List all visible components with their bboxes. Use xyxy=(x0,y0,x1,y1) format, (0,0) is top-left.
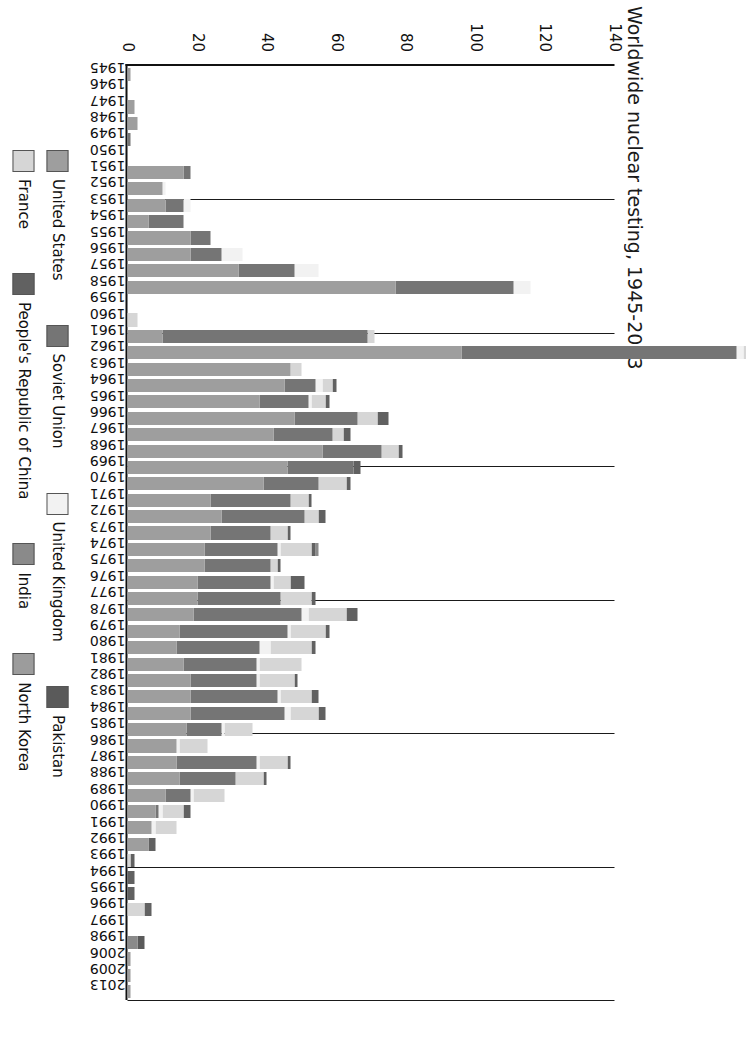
bar-1962 xyxy=(127,346,746,359)
x-tick-label: 1967 xyxy=(89,420,125,436)
legend-item[interactable]: Pakistan xyxy=(42,686,72,778)
bar-segment xyxy=(736,346,743,359)
bar-segment xyxy=(127,412,294,425)
legend-item[interactable]: India xyxy=(8,543,38,609)
y-tick-label: 120 xyxy=(535,23,553,52)
bar-segment xyxy=(197,576,270,589)
bar-segment xyxy=(190,248,221,261)
bar-segment xyxy=(127,608,193,621)
bar-segment xyxy=(461,346,736,359)
x-tick-label: 1997 xyxy=(89,912,125,928)
bar-segment xyxy=(162,182,165,195)
legend-label: North Korea xyxy=(14,682,32,771)
bar-segment xyxy=(127,576,197,589)
bar-segment xyxy=(127,215,148,228)
bar-1967 xyxy=(127,428,350,441)
bar-1971 xyxy=(127,494,311,507)
bar-segment xyxy=(398,445,401,458)
bar-segment xyxy=(127,871,134,884)
bar-segment xyxy=(332,428,342,441)
bar-segment xyxy=(127,854,130,867)
bar-1982 xyxy=(127,674,297,687)
bar-segment xyxy=(127,68,130,81)
bar-segment xyxy=(186,723,221,736)
bar-segment xyxy=(381,445,398,458)
bar-segment xyxy=(155,805,158,818)
x-tick-label: 2009 xyxy=(89,961,125,977)
bar-segment xyxy=(127,379,284,392)
x-tick-label: 1966 xyxy=(89,404,125,420)
bar-segment xyxy=(287,625,290,638)
x-tick-label: 1984 xyxy=(89,699,125,715)
legend-row-2: FrancePeople's Republic of ChinaIndiaNor… xyxy=(8,150,38,1010)
x-tick-label: 1977 xyxy=(89,584,125,600)
legend-item[interactable]: Soviet Union xyxy=(42,325,72,449)
bar-1995 xyxy=(127,887,134,900)
bar-segment xyxy=(127,428,273,441)
x-tick-label: 1954 xyxy=(89,207,125,223)
x-tick-label: 1959 xyxy=(89,289,125,305)
bar-segment xyxy=(127,739,176,752)
bar-segment xyxy=(318,707,325,720)
x-tick-label: 1979 xyxy=(89,617,125,633)
bar-segment xyxy=(165,199,182,212)
x-tick-label: 1988 xyxy=(89,764,125,780)
x-tick-label: 1956 xyxy=(89,240,125,256)
bar-segment xyxy=(162,805,183,818)
y-tick-label: 0 xyxy=(118,42,136,52)
x-tick-label: 1991 xyxy=(89,814,125,830)
bar-segment xyxy=(127,641,176,654)
legend-item[interactable]: United Kingdom xyxy=(42,493,72,642)
bar-segment xyxy=(210,494,290,507)
bar-segment xyxy=(353,461,360,474)
bar-1990 xyxy=(127,805,190,818)
bar-1981 xyxy=(127,658,301,671)
bar-segment xyxy=(256,756,259,769)
bar-1960 xyxy=(127,313,137,326)
bar-1947 xyxy=(127,100,134,113)
bar-segment xyxy=(294,674,297,687)
bar-2009 xyxy=(127,969,130,982)
bar-segment xyxy=(127,592,197,605)
legend-row-1: United StatesSoviet UnionUnited KingdomP… xyxy=(42,150,72,1010)
bar-segment xyxy=(346,477,349,490)
bar-segment xyxy=(179,772,235,785)
legend-item[interactable]: France xyxy=(8,150,38,229)
bar-segment xyxy=(259,756,287,769)
bar-segment xyxy=(259,674,294,687)
bar-segment xyxy=(127,723,186,736)
legend-item[interactable]: United States xyxy=(42,150,72,281)
x-tick-label: 1993 xyxy=(89,846,125,862)
bar-segment xyxy=(127,789,165,802)
x-tick-label: 1981 xyxy=(89,650,125,666)
bar-1952 xyxy=(127,182,165,195)
bar-1964 xyxy=(127,379,336,392)
x-tick-label: 1998 xyxy=(89,928,125,944)
y-tick-label: 140 xyxy=(605,23,623,52)
x-tick-label: 1951 xyxy=(89,158,125,174)
legend-item[interactable]: People's Republic of China xyxy=(8,273,38,500)
bar-1977 xyxy=(127,592,315,605)
bar-segment xyxy=(318,510,325,523)
bar-segment xyxy=(127,838,148,851)
legend-label: United States xyxy=(48,179,66,281)
x-tick-label: 1960 xyxy=(89,306,125,322)
bar-segment xyxy=(165,789,189,802)
bar-segment xyxy=(127,772,179,785)
bar-segment xyxy=(179,625,287,638)
x-tick-label: 1945 xyxy=(89,60,125,76)
bar-segment xyxy=(287,756,290,769)
legend-label: People's Republic of China xyxy=(14,302,32,500)
bar-segment xyxy=(190,231,211,244)
bar-1994 xyxy=(127,871,134,884)
bar-1948 xyxy=(127,117,137,130)
x-tick-label: 1983 xyxy=(89,682,125,698)
bar-1984 xyxy=(127,707,325,720)
legend-swatch-icon xyxy=(46,493,68,515)
bar-segment xyxy=(277,690,280,703)
legend-label: Soviet Union xyxy=(48,354,66,449)
legend-item[interactable]: North Korea xyxy=(8,653,38,771)
bar-segment xyxy=(151,821,154,834)
bar-segment xyxy=(284,379,315,392)
bar-segment xyxy=(127,346,461,359)
